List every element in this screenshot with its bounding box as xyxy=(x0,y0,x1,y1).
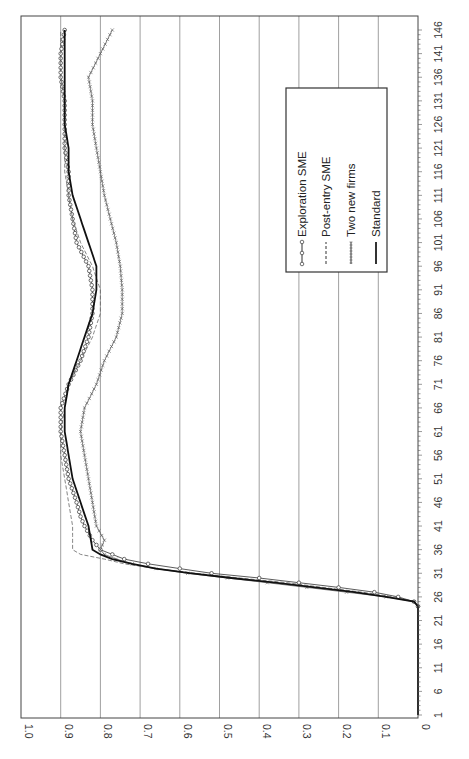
x-tick-label: 56 xyxy=(432,449,444,461)
x-tick-label: 91 xyxy=(432,284,444,296)
x-tick-label: 141 xyxy=(432,45,444,63)
y-tick-label: 0.4 xyxy=(261,724,273,739)
legend-label: Standard xyxy=(370,190,382,237)
legend-label: Two new firms xyxy=(345,163,357,237)
legend: Exploration SMEPost-entry SMETwo new fir… xyxy=(286,88,387,272)
x-tick-label: 131 xyxy=(432,92,444,110)
x-tick-label: 1 xyxy=(432,712,444,718)
y-tick-label: 1.0 xyxy=(23,724,35,739)
x-tick-label: 21 xyxy=(432,615,444,627)
x-tick-label: 6 xyxy=(432,688,444,694)
x-tick-label: 106 xyxy=(432,210,444,228)
x-tick-label: 121 xyxy=(432,139,444,157)
x-tick-label: 41 xyxy=(432,520,444,532)
x-tick-label: 116 xyxy=(432,163,444,180)
x-tick-label: 101 xyxy=(432,234,444,252)
x-tick-label: 76 xyxy=(432,355,444,367)
x-tick-label: 66 xyxy=(432,402,444,414)
x-tick-label: 71 xyxy=(432,378,444,390)
y-tick-label: 0.2 xyxy=(341,724,353,739)
line-chart: 1611162126313641465156616671768186919610… xyxy=(0,0,469,759)
legend-label: Post-entry SME xyxy=(320,156,332,237)
x-tick-label: 61 xyxy=(432,426,444,438)
y-tick-label: 0.5 xyxy=(222,724,234,739)
x-tick-label: 31 xyxy=(432,567,444,579)
x-tick-label: 81 xyxy=(432,331,444,343)
y-tick-label: 0 xyxy=(420,724,432,730)
y-tick-label: 0.7 xyxy=(142,724,154,739)
x-tick-label: 26 xyxy=(432,591,444,603)
legend-label: Exploration SME xyxy=(296,151,308,237)
y-tick-label: 0.3 xyxy=(301,724,313,739)
x-tick-label: 96 xyxy=(432,260,444,272)
x-tick-label: 36 xyxy=(432,544,444,556)
y-tick-label: 0.8 xyxy=(102,724,114,739)
y-axis: 00.10.20.30.40.50.60.70.80.91.0 xyxy=(23,724,432,739)
x-tick-label: 111 xyxy=(432,187,444,203)
x-tick-label: 136 xyxy=(432,68,444,86)
x-tick-label: 11 xyxy=(432,662,444,673)
y-tick-label: 0.9 xyxy=(63,724,75,739)
x-tick-label: 86 xyxy=(432,307,444,319)
y-tick-label: 0.1 xyxy=(380,724,392,739)
x-axis: 1611162126313641465156616671768186919610… xyxy=(418,21,444,718)
x-tick-label: 126 xyxy=(432,116,444,134)
x-tick-label: 46 xyxy=(432,496,444,508)
x-tick-label: 146 xyxy=(432,21,444,39)
y-tick-label: 0.6 xyxy=(182,724,194,739)
x-tick-label: 51 xyxy=(432,473,444,485)
x-tick-label: 16 xyxy=(432,638,444,650)
